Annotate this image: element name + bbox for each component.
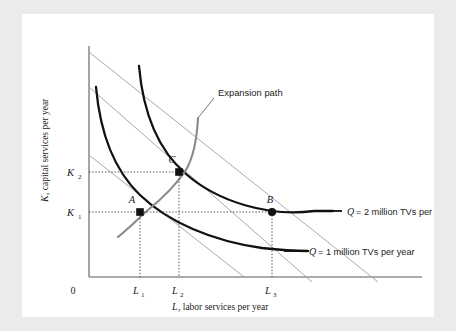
isoquant-2-million-annotation: Q = 2 million TVs per year	[322, 206, 434, 217]
x-axis-title-group: L , labor services per year	[171, 301, 269, 312]
point-marker-b[interactable]	[268, 208, 276, 216]
isoquant-1-million-label: = 1 million TVs per year	[318, 247, 415, 257]
y-tick-label-k2-sub: 2	[78, 173, 82, 181]
x-axis-title-label: , labor services per year	[178, 302, 269, 312]
expansion-path-annotation: Expansion path	[198, 87, 283, 118]
y-tick-label-k1-sub: 1	[78, 213, 82, 221]
point-marker-c[interactable]	[175, 168, 183, 176]
x-tick-label-l3-sub: 3	[273, 291, 277, 299]
isoquant-2-million-label: = 2 million TVs per year	[356, 207, 434, 217]
x-tick-label-l2-base: L	[171, 285, 178, 296]
x-tick-labels-group: 0 L 1 L 2 L 3	[71, 285, 278, 299]
isoquant-expansion-path-chart: A C B Expansion path Q = 2 million TVs p…	[22, 14, 434, 317]
y-axis-title-group: K , capital services per year	[39, 98, 50, 203]
y-tick-labels-group: K 2 K 1	[66, 167, 82, 221]
point-label-a: A	[128, 194, 136, 205]
x-tick-label-l3-base: L	[264, 285, 271, 296]
axes-group	[89, 46, 422, 277]
figure-root: A C B Expansion path Q = 2 million TVs p…	[0, 0, 456, 331]
isoquant-curve-1-million	[96, 87, 308, 251]
expansion-path-label: Expansion path	[218, 87, 283, 98]
figure-plate: A C B Expansion path Q = 2 million TVs p…	[22, 14, 434, 317]
isoquant-1-million-annotation: Q = 1 million TVs per year	[284, 246, 415, 257]
x-tick-label-l1-base: L	[132, 285, 139, 296]
isoquant-1-million-q-symbol: Q	[309, 246, 317, 257]
x-tick-label-origin: 0	[71, 285, 76, 296]
x-axis-title-symbol: L	[171, 301, 178, 312]
x-tick-label-l1-sub: 1	[141, 291, 145, 299]
isoquant-2-million-q-symbol: Q	[347, 206, 355, 217]
expansion-path-leader-line	[198, 98, 214, 118]
point-label-c: C	[168, 154, 176, 165]
y-axis-title-label: , capital services per year	[40, 98, 50, 195]
point-label-b: B	[267, 194, 274, 205]
point-marker-a[interactable]	[136, 208, 144, 216]
x-tick-label-l2-sub: 2	[180, 291, 184, 299]
y-tick-label-k1-base: K	[66, 207, 75, 218]
y-tick-label-k2-base: K	[66, 167, 75, 178]
